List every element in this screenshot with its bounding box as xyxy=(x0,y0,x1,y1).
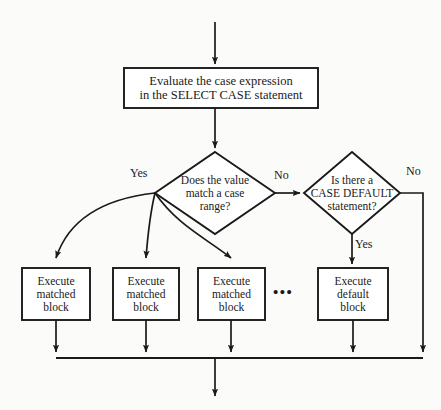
node-matched-block-3-box xyxy=(198,268,265,320)
edge-match-yes-to-block-1 xyxy=(56,193,155,258)
node-matched-block-1-box xyxy=(22,268,90,320)
flowchart-graphics xyxy=(0,0,441,410)
node-process-box xyxy=(124,68,318,108)
flowchart-canvas: Evaluate the case expression in the SELE… xyxy=(0,0,441,410)
node-default-block-box xyxy=(318,268,388,320)
edge-default-no xyxy=(400,193,423,352)
node-decision-match-diamond xyxy=(155,152,275,234)
edge-match-yes-to-block-2 xyxy=(146,193,155,258)
node-decision-default-diamond xyxy=(304,152,400,234)
node-matched-block-2-box xyxy=(113,268,179,320)
